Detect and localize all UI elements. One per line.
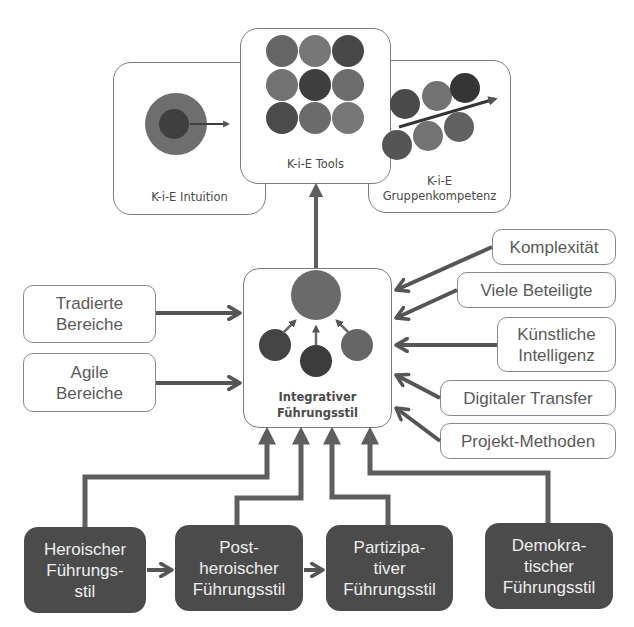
diagram-canvas: K-i-E Intuition K-i-E Gruppenkompetenz K… [0,0,634,627]
arrow-projekt-methoden [396,408,440,441]
arrow-democratic-up [370,432,548,523]
arrow-digitaler-transfer [396,375,440,398]
arrow-komplexitaet [396,247,492,290]
arrow-heroic-up [85,432,267,527]
tools-grid-icon [266,35,364,134]
intuition-icon [145,93,228,155]
arrow-viele-beteiligte [396,290,457,318]
group-competence-icon [382,73,495,160]
diagram-graphics [0,0,634,627]
arrow-participative-up [332,432,388,525]
integrative-icon [259,270,373,377]
